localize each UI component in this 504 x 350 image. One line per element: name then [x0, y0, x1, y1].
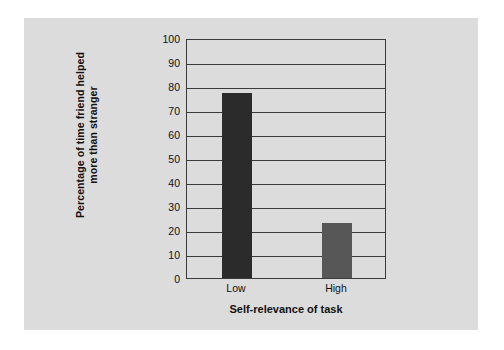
gridline-20: [187, 232, 385, 233]
x-tick-label-low: Low: [226, 282, 245, 294]
y-tick-label-40: 40: [146, 178, 180, 189]
gridline-80: [187, 88, 385, 89]
bar-high: [322, 223, 352, 278]
gridline-10: [187, 256, 385, 257]
x-axis-tick-labels: LowHigh: [186, 282, 386, 298]
bar-chart: Percentage of time friend helped more th…: [24, 18, 478, 330]
y-axis-tick-labels: 0102030405060708090100: [146, 39, 180, 279]
y-axis-title: Percentage of time friend helped more th…: [70, 20, 104, 250]
y-tick-label-80: 80: [146, 82, 180, 93]
x-tick-label-high: High: [325, 282, 347, 294]
gridline-60: [187, 136, 385, 137]
bar-low: [222, 93, 252, 278]
y-tick-label-30: 30: [146, 202, 180, 213]
gridline-40: [187, 184, 385, 185]
gridline-50: [187, 160, 385, 161]
y-tick-label-60: 60: [146, 130, 180, 141]
x-axis-title: Self-relevance of task: [186, 303, 386, 315]
y-tick-label-50: 50: [146, 154, 180, 165]
y-tick-label-10: 10: [146, 250, 180, 261]
plot-area: [186, 39, 386, 279]
gridline-30: [187, 208, 385, 209]
y-axis-title-line2: more than stranger: [87, 86, 100, 184]
y-tick-label-70: 70: [146, 106, 180, 117]
y-tick-label-100: 100: [146, 34, 180, 45]
y-tick-label-0: 0: [146, 274, 180, 285]
figure-card: Percentage of time friend helped more th…: [24, 18, 478, 330]
y-tick-label-20: 20: [146, 226, 180, 237]
gridline-90: [187, 64, 385, 65]
y-tick-label-90: 90: [146, 58, 180, 69]
y-axis-title-line1: Percentage of time friend helped: [74, 52, 87, 218]
gridline-70: [187, 112, 385, 113]
